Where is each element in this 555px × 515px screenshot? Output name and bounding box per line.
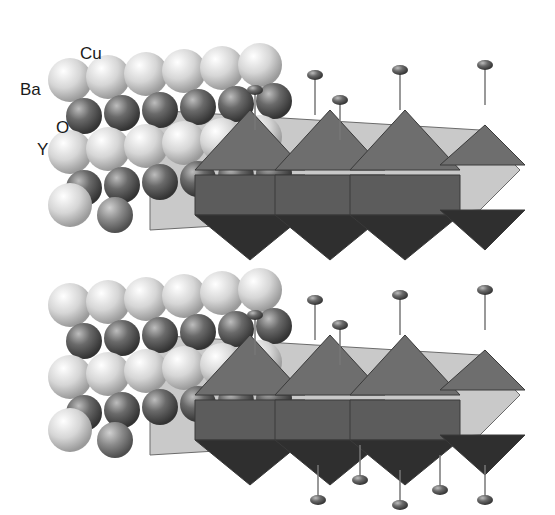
square-pyramid-bottom (440, 435, 525, 475)
cu-chain-atom (477, 60, 493, 70)
y-atom (97, 197, 133, 233)
o-atom (142, 317, 178, 353)
ba-atom (48, 408, 92, 452)
o-atom (104, 392, 140, 428)
ba-atom (48, 130, 92, 174)
o-atom (142, 92, 178, 128)
cu-chain-atom (332, 320, 348, 330)
o-atom (104, 167, 140, 203)
cu-chain-atom (307, 70, 323, 80)
ba-atom (200, 46, 244, 90)
square-pyramid-bottom (350, 215, 460, 260)
cu-chain-atom (392, 290, 408, 300)
structure-layers (48, 43, 525, 510)
square-pyramid-bottom (440, 210, 525, 250)
o-atom (180, 314, 216, 350)
ba-atom (162, 274, 206, 318)
crystal-structure-diagram (0, 0, 555, 515)
cu-chain-atom (332, 95, 348, 105)
cu-chain-atom (432, 485, 448, 495)
cu-chain-atom (247, 310, 263, 320)
structure-layer (48, 268, 525, 485)
label-o: O (56, 118, 69, 138)
cu-chain-atom (247, 85, 263, 95)
label-ba: Ba (20, 80, 41, 100)
ba-atom (48, 283, 92, 327)
pyramid-prism (350, 175, 460, 215)
ba-atom (162, 121, 206, 165)
cu-chain-atom (352, 475, 368, 485)
ba-atom (124, 277, 168, 321)
o-atom (180, 89, 216, 125)
ba-atom (124, 52, 168, 96)
o-atom (66, 98, 102, 134)
ba-atom (238, 43, 282, 87)
ba-atom (124, 349, 168, 393)
cu-chain-atom (392, 65, 408, 75)
o-atom (142, 164, 178, 200)
ba-atom (48, 355, 92, 399)
y-atom (97, 422, 133, 458)
ba-atom (162, 49, 206, 93)
ba-atom (124, 124, 168, 168)
ba-atom (86, 352, 130, 396)
ba-atom (238, 268, 282, 312)
o-atom (104, 95, 140, 131)
o-atom (66, 323, 102, 359)
cu-chain-atom (477, 285, 493, 295)
o-atom (104, 320, 140, 356)
ba-atom (162, 346, 206, 390)
cu-chain-atom (477, 495, 493, 505)
cu-chain-atom (310, 495, 326, 505)
pyramid-prism (350, 400, 460, 440)
ba-atom (48, 183, 92, 227)
cu-chain-atom (307, 295, 323, 305)
ba-atom (86, 127, 130, 171)
label-y: Y (37, 140, 48, 160)
o-atom (142, 389, 178, 425)
cu-chain-atom (392, 500, 408, 510)
label-cu: Cu (80, 44, 102, 64)
ba-atom (86, 280, 130, 324)
structure-layer (48, 43, 525, 260)
ba-atom (48, 58, 92, 102)
ba-atom (200, 271, 244, 315)
crystal-structure-figure: Cu Ba O Y (0, 0, 555, 515)
